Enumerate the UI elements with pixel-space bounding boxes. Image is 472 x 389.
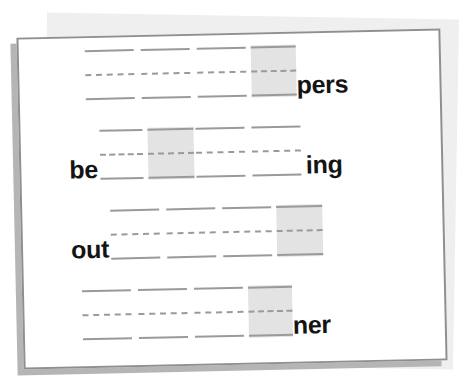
practice-row: ner xyxy=(80,281,331,344)
dashed-midline xyxy=(82,313,131,316)
rule-cell-group xyxy=(97,124,306,181)
ruled-cell xyxy=(80,288,137,341)
practice-rows-container: persbeingoutner xyxy=(18,30,445,367)
row-prefix-text: be xyxy=(69,157,98,183)
rule-cell-group xyxy=(83,45,297,102)
answer-box[interactable] xyxy=(147,127,194,180)
ruled-cell xyxy=(83,48,140,101)
dashed-midline xyxy=(252,149,301,152)
ruled-cell xyxy=(195,46,252,99)
ruled-cell xyxy=(193,126,250,179)
row-suffix-text: ner xyxy=(292,312,331,338)
answer-box[interactable] xyxy=(251,45,297,98)
practice-row: pers xyxy=(83,40,349,104)
rule-cell-group xyxy=(80,285,293,342)
ruled-cell xyxy=(139,47,196,100)
ruled-cell xyxy=(108,207,165,260)
dashed-midline xyxy=(223,230,272,233)
dashed-midline xyxy=(111,233,160,236)
row-prefix-text: out xyxy=(71,237,110,263)
dashed-midline xyxy=(141,72,190,75)
practice-row: out xyxy=(70,201,323,264)
worksheet-canvas: persbeingoutner xyxy=(0,0,472,389)
dashed-midline xyxy=(148,152,194,155)
dashed-midline xyxy=(251,70,296,73)
ruled-cell xyxy=(97,128,148,181)
practice-row: being xyxy=(68,121,342,185)
ruled-cell xyxy=(220,205,277,258)
dashed-midline xyxy=(277,229,323,232)
dashed-midline xyxy=(194,311,243,314)
dashed-midline xyxy=(248,310,292,313)
rule-cell-group xyxy=(108,204,323,261)
dashed-midline xyxy=(138,312,187,315)
dashed-midline xyxy=(197,71,246,74)
ruled-cell xyxy=(136,287,193,340)
answer-box[interactable] xyxy=(276,204,323,257)
worksheet-card: persbeingoutner xyxy=(16,28,447,369)
dashed-midline xyxy=(85,73,134,76)
row-suffix-text: pers xyxy=(296,71,348,97)
dashed-midline xyxy=(100,153,143,156)
ruled-cell xyxy=(164,206,221,259)
dashed-midline xyxy=(167,231,216,234)
row-suffix-text: ing xyxy=(306,152,343,178)
ruled-cell xyxy=(192,286,249,339)
answer-box[interactable] xyxy=(248,285,293,338)
dashed-midline xyxy=(196,151,245,154)
ruled-cell xyxy=(249,124,306,177)
